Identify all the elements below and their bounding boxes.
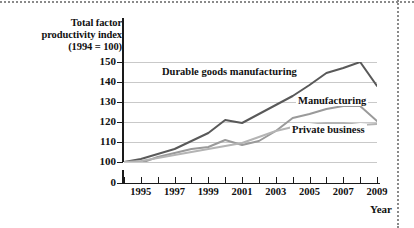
x-tick (191, 177, 192, 183)
x-tick-label: 2009 (357, 186, 397, 197)
y-tick-label: 100 (70, 155, 116, 167)
x-tick (360, 177, 361, 183)
chart-figure: Total factor productivity index (1994 = … (0, 0, 414, 228)
y-tick-label: 140 (70, 75, 116, 87)
y-tick (117, 162, 123, 163)
x-tick (343, 177, 344, 183)
x-tick (141, 177, 142, 183)
y-tick-label: 120 (70, 115, 116, 127)
x-tick (259, 177, 260, 183)
series-lines (124, 62, 377, 162)
y-tick-label: 150 (70, 55, 116, 67)
gridline (124, 162, 377, 163)
y-tick (117, 82, 123, 83)
x-tick (175, 177, 176, 183)
y-tick (117, 122, 123, 123)
x-tick (208, 177, 209, 183)
series-label-private-business: Private business (290, 124, 367, 135)
y-tick-label: 130 (70, 95, 116, 107)
page-border-right (397, 0, 399, 228)
x-tick (276, 177, 277, 183)
y-axis-title-text: Total factor productivity index (1994 = … (41, 17, 122, 52)
y-tick (117, 102, 123, 103)
y-tick-label: 110 (70, 135, 116, 147)
series-label-durable-goods-manufacturing: Durable goods manufacturing (160, 66, 299, 77)
x-tick (158, 177, 159, 183)
y-tick-label: 0 (70, 176, 116, 188)
plot-area (124, 62, 377, 162)
x-tick (310, 177, 311, 183)
y-axis-title: Total factor productivity index (1994 = … (18, 17, 122, 54)
y-tick (117, 183, 123, 184)
x-tick (293, 177, 294, 183)
series-line-durable-goods-manufacturing (124, 62, 377, 162)
x-tick (326, 177, 327, 183)
x-tick (242, 177, 243, 183)
y-tick (117, 62, 123, 63)
x-axis-line (122, 183, 380, 184)
x-tick (225, 177, 226, 183)
series-label-manufacturing: Manufacturing (296, 95, 368, 106)
y-tick (117, 142, 123, 143)
x-tick (124, 177, 125, 183)
page-border-top (0, 1, 414, 3)
x-axis-title: Year (370, 203, 392, 215)
x-tick (377, 177, 378, 183)
